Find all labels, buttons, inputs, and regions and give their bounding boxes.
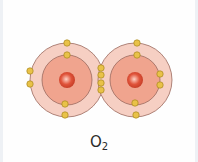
oxygen-atom-right [98, 40, 172, 118]
oxygen-atom-left [27, 40, 104, 118]
electron [27, 68, 33, 74]
electron [157, 71, 163, 77]
shared-electron [98, 87, 104, 93]
formula-element: O [90, 133, 102, 151]
electron [134, 40, 140, 46]
electron [134, 52, 140, 58]
electron [157, 82, 163, 88]
formula-subscript: 2 [102, 141, 108, 152]
electron [64, 40, 70, 46]
shared-electron [98, 65, 104, 71]
electron [27, 81, 33, 87]
electron [62, 112, 68, 118]
molecule-formula-label: O2 [0, 133, 198, 152]
shared-electron [98, 72, 104, 78]
electron [64, 52, 70, 58]
shared-electron [98, 80, 104, 86]
nucleus [127, 72, 143, 88]
electron [62, 101, 68, 107]
electron [133, 112, 139, 118]
electron [132, 100, 138, 106]
nucleus [59, 72, 75, 88]
